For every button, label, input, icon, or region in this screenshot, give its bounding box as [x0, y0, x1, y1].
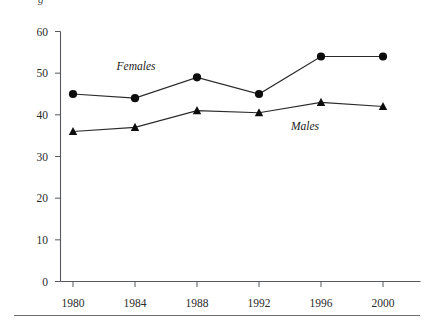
x-tick-label: 1992 [248, 297, 271, 309]
data-point-females [193, 73, 201, 81]
y-axis-tick-labels: 0102030405060 [37, 26, 49, 288]
x-tick-label: 1988 [186, 297, 209, 309]
series-line-males [73, 102, 383, 131]
chart-figure: g 0102030405060 198019841988199219962000… [0, 0, 434, 331]
x-tick-label: 1996 [310, 297, 333, 309]
clipped-top-text: g [38, 0, 44, 5]
x-axis-ticks [73, 282, 383, 288]
y-tick-label: 40 [37, 109, 49, 121]
y-tick-label: 0 [42, 276, 48, 288]
data-point-females [255, 90, 263, 98]
y-axis-ticks [55, 32, 61, 282]
data-point-males [317, 98, 325, 106]
y-tick-label: 20 [37, 192, 49, 204]
x-tick-label: 1980 [62, 297, 85, 309]
line-chart: 0102030405060 198019841988199219962000 F… [0, 0, 434, 331]
series-label-males: Males [290, 120, 320, 132]
y-tick-label: 60 [37, 26, 49, 38]
data-point-females [317, 52, 325, 60]
data-point-females [69, 90, 77, 98]
y-tick-label: 50 [37, 67, 49, 79]
x-tick-label: 1984 [124, 297, 147, 309]
data-point-males [193, 106, 201, 114]
y-tick-label: 30 [37, 151, 49, 163]
series-label-females: Females [116, 60, 156, 72]
series-annotations: FemalesMales [116, 60, 320, 132]
data-point-females [379, 52, 387, 60]
x-axis-tick-labels: 198019841988199219962000 [62, 297, 395, 309]
x-tick-label: 2000 [372, 297, 395, 309]
y-tick-label: 10 [37, 234, 49, 246]
data-point-females [131, 94, 139, 102]
